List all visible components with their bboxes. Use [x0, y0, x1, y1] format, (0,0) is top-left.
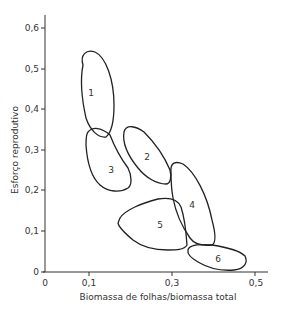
- x-tick-0.1: 0,1: [82, 278, 96, 288]
- x-tick-0.3: 0,3: [165, 278, 179, 288]
- region-2-label: 2: [144, 152, 150, 162]
- x-tick-0: 0: [42, 278, 48, 288]
- region-5-label: 5: [157, 220, 163, 230]
- y-tick-0.6: 0,6: [25, 23, 40, 33]
- y-axis-label: Esforço reprodutivo: [10, 106, 20, 194]
- x-axis-label: Biomassa de folhas/biomassa total: [80, 292, 237, 302]
- region-4-label: 4: [189, 200, 195, 210]
- region-6-label: 6: [215, 254, 221, 264]
- y-tick-0.2: 0,2: [25, 185, 39, 195]
- y-tick-0.1: 0,1: [25, 226, 39, 236]
- chart: 0 0,1 0,2 0,3 0,4 0,5 0,6 0 0,1 0,3 0,5 …: [0, 0, 283, 315]
- x-ticks: [89, 272, 255, 276]
- y-tick-0: 0: [33, 267, 39, 277]
- region-1: [82, 51, 114, 137]
- y-tick-0.4: 0,4: [25, 104, 40, 114]
- region-5: [118, 198, 187, 250]
- x-tick-0.5: 0,5: [249, 278, 263, 288]
- region-3-label: 3: [108, 165, 114, 175]
- region-1-label: 1: [88, 88, 94, 98]
- y-tick-0.3: 0,3: [25, 145, 39, 155]
- y-ticks: [41, 28, 45, 272]
- y-tick-0.5: 0,5: [25, 64, 39, 74]
